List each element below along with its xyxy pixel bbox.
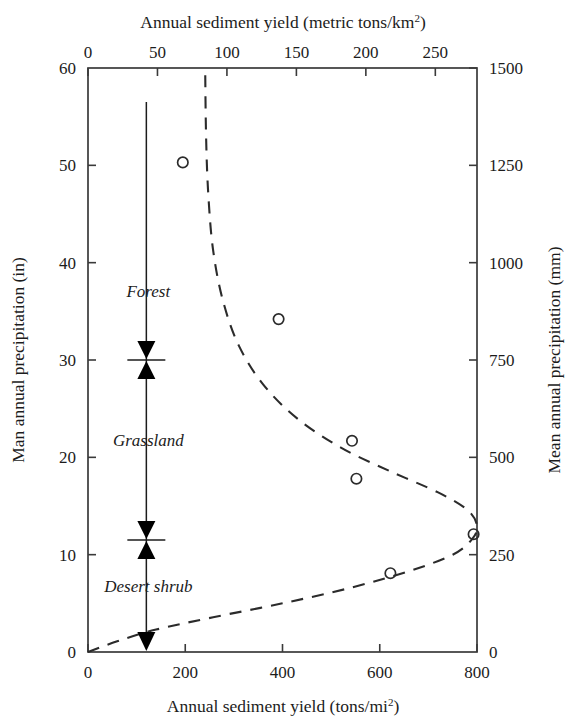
x-tick-label: 200 <box>173 663 199 682</box>
y-tick-label: 50 <box>59 156 76 175</box>
zone-divider-arrow-down <box>137 341 155 359</box>
data-point <box>385 568 395 578</box>
zone-label-grassland: Grassland <box>113 431 184 450</box>
y2-axis-title: Mean annual precipitation (mm) <box>544 246 564 473</box>
y-tick-label: 40 <box>59 254 76 273</box>
data-point <box>351 474 361 484</box>
x2-axis-title: Annual sediment yield (metric tons/km2) <box>140 12 426 32</box>
y-tick-label: 60 <box>59 59 76 78</box>
y-tick-label: 20 <box>59 448 76 467</box>
x-tick-label: 800 <box>464 663 490 682</box>
x-tick-label: 400 <box>270 663 296 682</box>
sediment-yield-precipitation-chart: 0200400600800050100150200250010203040506… <box>0 0 581 725</box>
zone-divider-arrow-up <box>137 361 155 379</box>
bracket-bottom-arrow <box>137 632 155 651</box>
zone-label-forest: Forest <box>125 282 171 301</box>
y2-tick-label: 250 <box>489 546 515 565</box>
y-axis-title: Man annual precipitation (in) <box>8 257 28 463</box>
x2-tick-label: 150 <box>284 43 310 62</box>
zone-divider-arrow-up <box>137 541 155 559</box>
y-tick-label: 0 <box>68 643 77 662</box>
y2-tick-label: 1250 <box>489 156 523 175</box>
data-point <box>178 157 188 167</box>
y2-tick-label: 1000 <box>489 254 523 273</box>
x2-tick-label: 100 <box>214 43 240 62</box>
zone-label-desert-shrub: Desert shrub <box>103 577 192 596</box>
x-axis-title: Annual sediment yield (tons/mi2) <box>167 696 400 716</box>
y2-tick-label: 0 <box>489 643 498 662</box>
x-tick-label: 600 <box>367 663 393 682</box>
y-tick-label: 10 <box>59 546 76 565</box>
data-point <box>273 314 283 324</box>
data-point <box>347 436 357 446</box>
x-tick-label: 0 <box>84 663 93 682</box>
chart-canvas: 0200400600800050100150200250010203040506… <box>0 0 581 725</box>
x2-tick-label: 0 <box>84 43 93 62</box>
zone-divider-arrow-down <box>137 521 155 539</box>
y2-tick-label: 500 <box>489 448 515 467</box>
y2-tick-label: 750 <box>489 351 515 370</box>
x2-tick-label: 50 <box>149 43 166 62</box>
y2-tick-label: 1500 <box>489 59 523 78</box>
x2-tick-label: 200 <box>353 43 379 62</box>
y-tick-label: 30 <box>59 351 76 370</box>
x2-tick-label: 250 <box>423 43 449 62</box>
